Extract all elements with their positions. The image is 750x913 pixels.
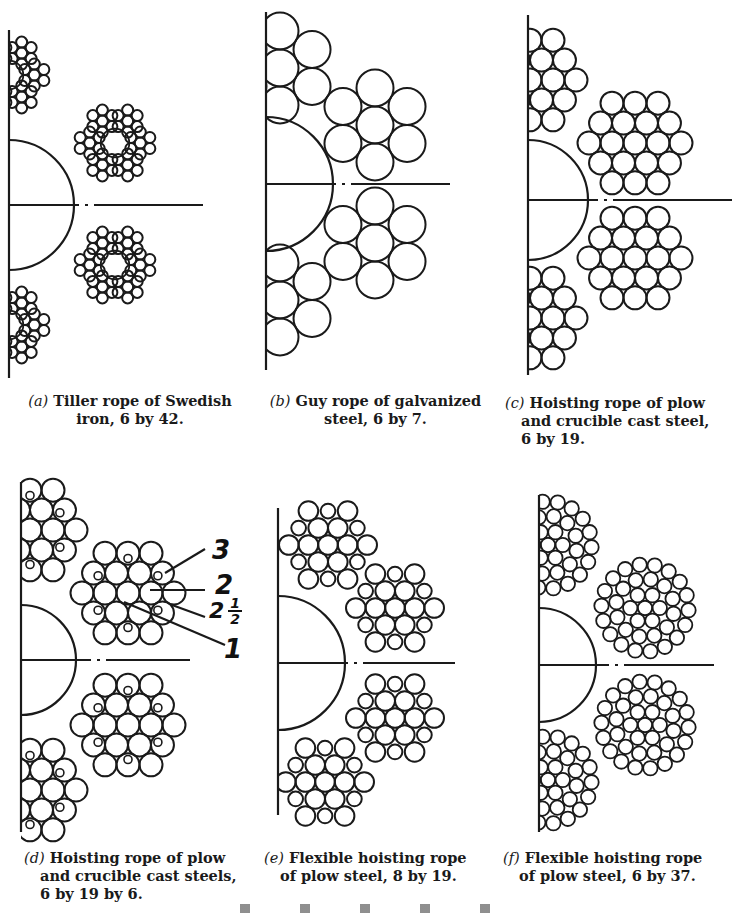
caption-c-line2: and crucible cast steel, bbox=[505, 412, 709, 429]
caption-d: (d) Hoisting rope of plow and crucible c… bbox=[24, 849, 264, 903]
caption-b-line2: steel, 6 by 7. bbox=[324, 410, 427, 427]
rope-cross-section-8x19 bbox=[260, 470, 500, 840]
panel-b-diagram bbox=[250, 0, 500, 380]
cut-off-figure-title bbox=[240, 904, 540, 913]
caption-a-line1: Tiller rope of Swedish bbox=[53, 392, 231, 409]
caption-f-line2: of plow steel, 6 by 37. bbox=[503, 867, 696, 884]
caption-a: (a) Tiller rope of Swedish iron, 6 by 42… bbox=[15, 392, 245, 428]
annotation-1: 1 bbox=[224, 634, 242, 664]
caption-b: (b) Guy rope of galvanized steel, 6 by 7… bbox=[258, 392, 493, 428]
caption-f-line1: Flexible hoisting rope bbox=[525, 849, 703, 866]
annotation-half-den: 2 bbox=[228, 612, 242, 626]
panel-e-diagram bbox=[260, 470, 500, 840]
caption-f: (f) Flexible hoisting rope of plow steel… bbox=[503, 849, 748, 885]
caption-d-label: (d) bbox=[24, 850, 45, 866]
rope-cross-section-6x7 bbox=[250, 0, 500, 380]
caption-a-line2: iron, 6 by 42. bbox=[76, 410, 183, 427]
caption-a-label: (a) bbox=[28, 393, 48, 409]
caption-d-line1: Hoisting rope of plow bbox=[50, 849, 225, 866]
rope-cross-section-6x19 bbox=[500, 0, 750, 380]
caption-b-line1: Guy rope of galvanized bbox=[296, 392, 482, 409]
caption-e-line1: Flexible hoisting rope bbox=[289, 849, 467, 866]
panel-f-diagram bbox=[520, 490, 750, 840]
caption-d-line2: and crucible cast steels, bbox=[24, 867, 237, 884]
caption-c-line1: Hoisting rope of plow bbox=[530, 394, 705, 411]
annotation-3: 3 bbox=[212, 535, 230, 565]
caption-c-line3: 6 by 19. bbox=[505, 430, 585, 447]
caption-f-label: (f) bbox=[503, 850, 520, 866]
caption-e-label: (e) bbox=[264, 850, 284, 866]
annotation-2-whole: 2 bbox=[209, 598, 224, 623]
caption-c: (c) Hoisting rope of plow and crucible c… bbox=[505, 394, 745, 448]
annotation-half-num: 1 bbox=[228, 596, 242, 610]
caption-e: (e) Flexible hoisting rope of plow steel… bbox=[264, 849, 504, 885]
caption-c-label: (c) bbox=[505, 395, 524, 411]
caption-b-label: (b) bbox=[270, 393, 291, 409]
panel-d-diagram bbox=[0, 470, 260, 840]
caption-d-line3: 6 by 19 by 6. bbox=[24, 885, 143, 902]
annotation-half: 1 2 bbox=[228, 596, 242, 626]
rope-cross-section-6x37 bbox=[520, 490, 750, 840]
rope-cross-section-6x42 bbox=[0, 0, 250, 380]
caption-e-line2: of plow steel, 8 by 19. bbox=[264, 867, 457, 884]
rope-cross-section-6x19x6 bbox=[0, 470, 260, 840]
panel-c-diagram bbox=[500, 0, 750, 380]
panel-a-diagram bbox=[0, 0, 250, 380]
